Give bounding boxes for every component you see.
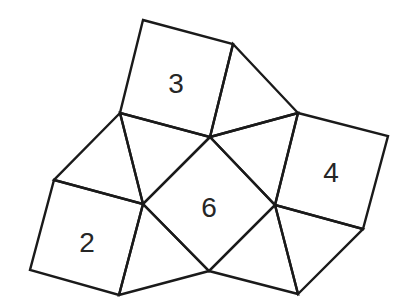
triangle-upper-mid-left: [120, 113, 210, 204]
square-6-label: 6: [201, 192, 217, 223]
square-4-label: 4: [323, 157, 339, 188]
triangle-bottom-left: [119, 204, 209, 295]
square-3-label: 3: [168, 68, 184, 99]
triangle-bottom-right: [275, 205, 363, 294]
labels-group: 3462: [79, 68, 339, 258]
triangle-left: [54, 113, 143, 204]
square-2-label: 2: [79, 227, 95, 258]
triangles-group: [54, 44, 363, 295]
triangle-top-right: [210, 44, 298, 137]
tiling-diagram: 3462: [0, 0, 410, 307]
triangle-upper-mid-right: [210, 113, 298, 205]
diagram-canvas: 3462: [0, 0, 410, 307]
triangle-bottom-mid-right: [209, 205, 298, 294]
